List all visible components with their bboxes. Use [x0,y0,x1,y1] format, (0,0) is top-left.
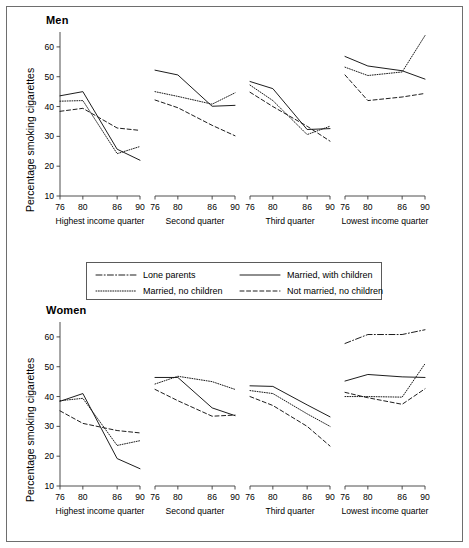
x-tick-label: 80 [268,202,278,212]
panel-caption: Lowest income quarter [342,216,429,226]
x-tick-label: 90 [325,202,335,212]
panel-caption: Third quarter [265,216,314,226]
legend-item-married-no-children: Married, no children [95,286,223,296]
series-line [60,394,140,469]
legend-item-married-with-children: Married, with children [239,270,373,280]
legend-label-not-married-no-children: Not married, no children [287,286,383,296]
x-tick-label: 90 [230,202,240,212]
x-tick-label: 86 [112,492,122,502]
y-tick-label: 30 [44,131,54,141]
x-tick-label: 80 [173,492,183,502]
y-tick-label: 20 [44,161,54,171]
x-tick-label: 76 [340,492,350,502]
series-line [250,82,330,130]
x-tick-label: 76 [55,492,65,502]
y-tick-label: 50 [44,362,54,372]
legend-row-3: Married, no children [95,283,223,298]
y-tick-label: 60 [44,42,54,52]
series-line [60,411,140,433]
x-tick-label: 86 [302,492,312,502]
x-tick-label: 90 [420,492,430,502]
series-line [250,85,330,134]
panel-caption: Third quarter [265,506,314,516]
series-line [155,376,235,389]
series-line [345,75,425,101]
series-line [155,92,235,105]
x-tick-label: 80 [363,202,373,212]
series-line [345,36,425,76]
series-line [345,56,425,79]
x-tick-label: 90 [135,492,145,502]
legend-item-lone-parents: Lone parents [95,270,196,280]
x-tick-label: 86 [397,492,407,502]
series-line [345,364,425,397]
y-tick-label: 20 [44,451,54,461]
legend-row-1: Lone parents [95,267,196,282]
series-line [155,377,235,415]
chart-canvas-men: 60504030201076808690Highest income quart… [0,14,469,239]
y-tick-label: 50 [44,72,54,82]
series-line [250,92,330,141]
legend-swatch-solid [239,270,281,280]
panel-caption: Second quarter [166,216,225,226]
legend-swatch-dashdot [95,270,137,280]
legend-row-2: Married, with children [239,267,373,282]
x-tick-label: 80 [78,492,88,502]
x-tick-label: 86 [207,492,217,502]
series-line [60,92,140,161]
x-tick-label: 86 [302,202,312,212]
series-line [60,398,140,445]
legend-item-not-married-no-children: Not married, no children [239,286,383,296]
series-line [60,101,140,154]
x-tick-label: 90 [420,202,430,212]
x-tick-label: 76 [55,202,65,212]
legend-swatch-dotted [95,286,137,296]
legend: Lone parents Married, with children Marr… [86,262,382,300]
x-tick-label: 76 [340,202,350,212]
series-line [60,108,140,130]
legend-label-lone-parents: Lone parents [143,270,196,280]
panel-caption: Lowest income quarter [342,506,429,516]
y-tick-label: 10 [44,481,54,491]
x-tick-label: 80 [78,202,88,212]
legend-label-married-no-children: Married, no children [143,286,223,296]
x-tick-label: 76 [150,202,160,212]
panel-caption: Highest income quarter [56,216,145,226]
figure-root: Men Percentage smoking cigarettes 605040… [0,0,469,548]
series-line [345,374,425,381]
x-tick-label: 90 [325,492,335,502]
x-tick-label: 86 [112,202,122,212]
panel-caption: Second quarter [166,506,225,516]
legend-swatch-dashed [239,286,281,296]
x-tick-label: 86 [397,202,407,212]
panel-caption: Highest income quarter [56,506,145,516]
x-tick-label: 76 [245,492,255,502]
series-line [155,70,235,106]
x-tick-label: 86 [207,202,217,212]
x-tick-label: 80 [173,202,183,212]
y-tick-label: 40 [44,392,54,402]
legend-label-married-with-children: Married, with children [287,270,373,280]
y-tick-label: 40 [44,102,54,112]
y-tick-label: 30 [44,421,54,431]
x-tick-label: 80 [363,492,373,502]
series-line [345,330,425,344]
y-tick-label: 10 [44,191,54,201]
x-tick-label: 76 [245,202,255,212]
x-tick-label: 80 [268,492,278,502]
y-tick-label: 60 [44,332,54,342]
legend-row-4: Not married, no children [239,283,383,298]
x-tick-label: 90 [135,202,145,212]
x-tick-label: 76 [150,492,160,502]
x-tick-label: 90 [230,492,240,502]
chart-canvas-women: 60504030201076808690Highest income quart… [0,304,469,529]
series-line [155,389,235,416]
